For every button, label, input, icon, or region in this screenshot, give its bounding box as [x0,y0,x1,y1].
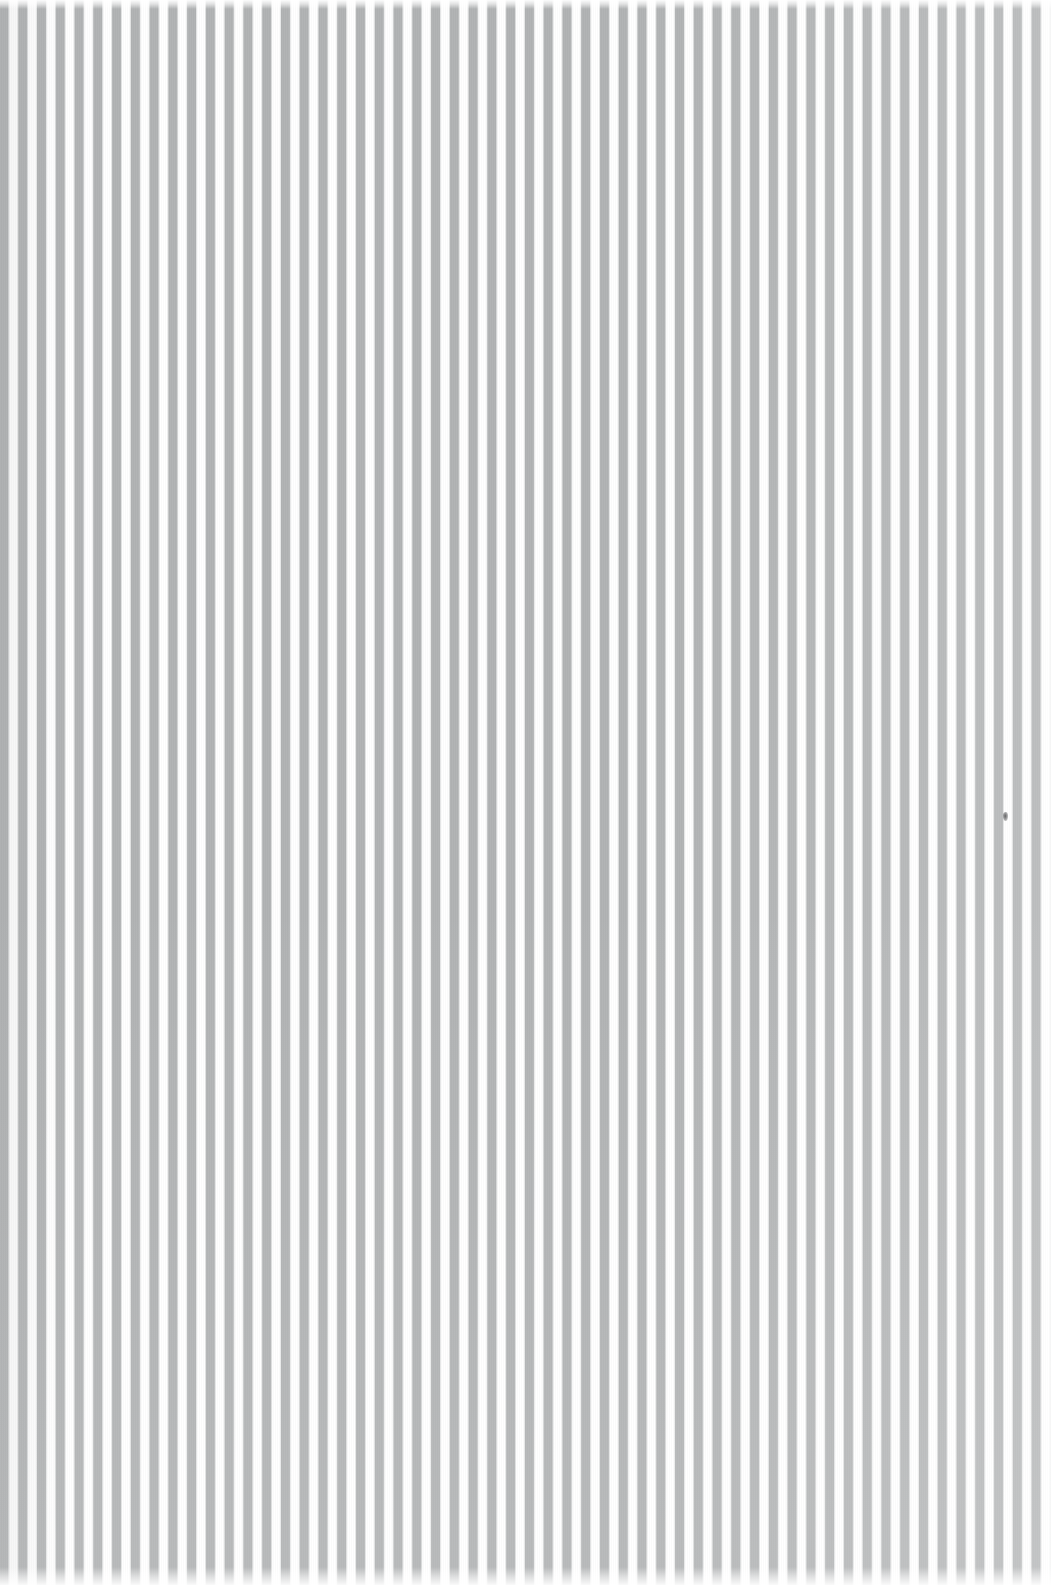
stripe-field [0,0,1051,1585]
stripe-bars [0,0,1051,1585]
striped-surface [0,0,1051,1585]
